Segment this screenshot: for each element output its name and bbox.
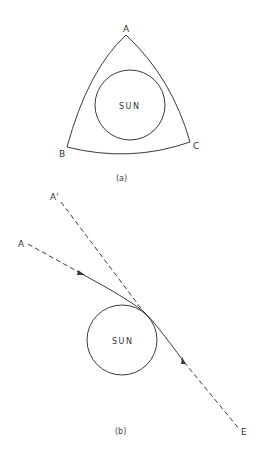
figure-b: SUN A' A E (b) bbox=[18, 192, 247, 437]
incoming-ray-dashed bbox=[28, 244, 82, 274]
diagram-canvas: SUN A B C (a) SUN A' A E (b) bbox=[0, 0, 258, 454]
apparent-ray-line bbox=[61, 202, 143, 311]
label-a-prime: A' bbox=[50, 192, 59, 202]
figure-a: SUN A B C (a) bbox=[59, 24, 199, 183]
arrow-icon-outgoing bbox=[181, 357, 186, 364]
sun-label-a: SUN bbox=[119, 102, 140, 111]
sun-label-b: SUN bbox=[112, 337, 133, 346]
arrow-icon-incoming bbox=[77, 270, 85, 275]
caption-a: (a) bbox=[116, 174, 127, 183]
label-a: A bbox=[18, 239, 25, 249]
outgoing-ray-dashed bbox=[184, 362, 240, 430]
incoming-ray-solid bbox=[82, 274, 143, 311]
curved-triangle bbox=[67, 35, 190, 154]
label-e: E bbox=[241, 427, 247, 437]
vertex-label-b: B bbox=[59, 149, 65, 159]
vertex-label-a: A bbox=[123, 24, 130, 34]
caption-b: (b) bbox=[115, 427, 126, 436]
vertex-label-c: C bbox=[193, 141, 199, 151]
